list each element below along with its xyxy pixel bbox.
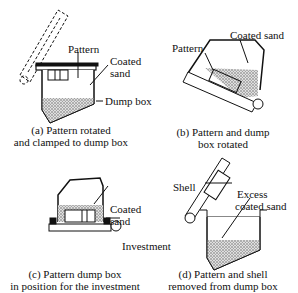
- caption-b-line2: box rotated: [148, 138, 298, 150]
- label-coated-c-2: sand: [110, 215, 130, 227]
- caption-c-line2: in position for the investment: [0, 280, 150, 292]
- label-dump-box: Dump box: [105, 95, 152, 107]
- panel-a-drawing: [20, 10, 108, 123]
- caption-d-line1: (d) Pattern and shell: [148, 268, 298, 280]
- caption-b-line1: (b) Pattern and dump: [148, 126, 298, 138]
- label-excess-2: coated sand: [235, 200, 287, 212]
- label-pattern-a: Pattern: [68, 43, 99, 55]
- caption-a-line2: and clamped to dump box: [0, 136, 142, 148]
- label-pattern-b: Pattern: [172, 42, 203, 54]
- label-coated-b: Coated sand: [230, 29, 284, 41]
- panel-d-drawing: [185, 158, 267, 270]
- label-coated-c-1: Coated: [110, 203, 141, 215]
- label-shell: Shell: [173, 181, 196, 193]
- caption-a-line1: (a) Pattern rotated: [0, 124, 142, 136]
- label-excess-1: Excess: [237, 188, 268, 200]
- caption-c-line1: (c) Pattern dump box: [0, 268, 150, 280]
- caption-d-line2: removed from dump box: [148, 280, 298, 292]
- label-coated-a-2: sand: [110, 67, 130, 79]
- label-investment: Investment: [122, 240, 171, 252]
- label-coated-a-1: Coated: [110, 55, 141, 67]
